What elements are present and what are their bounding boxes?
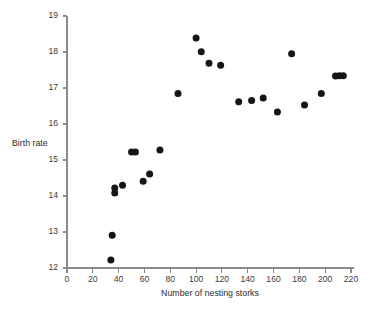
x-tick-group: 020406080100120140160180200220	[65, 268, 359, 284]
data-point	[288, 50, 295, 57]
x-tick-label: 0	[65, 274, 70, 284]
data-point	[119, 182, 126, 189]
y-axis-title: Birth rate	[12, 138, 48, 148]
y-tick-label: 12	[48, 262, 58, 272]
data-point	[132, 149, 139, 156]
x-tick-label: 140	[241, 274, 256, 284]
x-tick-label: 40	[114, 274, 124, 284]
data-point	[318, 90, 325, 97]
x-tick-label: 160	[266, 274, 281, 284]
data-point	[260, 95, 267, 102]
data-point	[206, 60, 213, 67]
data-point	[175, 90, 182, 97]
y-axis: 1213141516171819	[48, 10, 67, 272]
x-tick-label: 120	[215, 274, 230, 284]
x-tick-label: 100	[189, 274, 204, 284]
data-point	[340, 72, 347, 79]
scatter-plot-figure: 1213141516171819 02040608010012014016018…	[0, 0, 370, 313]
data-point	[146, 171, 153, 178]
x-tick-label: 80	[165, 274, 175, 284]
y-tick-label: 14	[48, 190, 58, 200]
data-point	[217, 62, 224, 69]
data-point	[301, 101, 308, 108]
y-tick-label: 19	[48, 10, 58, 20]
data-points-group	[107, 34, 346, 263]
data-point	[140, 178, 147, 185]
data-point	[156, 146, 163, 153]
x-tick-label: 20	[88, 274, 98, 284]
data-point	[274, 109, 281, 116]
data-point	[109, 232, 116, 239]
data-point	[248, 97, 255, 104]
x-tick-label: 60	[140, 274, 150, 284]
y-tick-label: 18	[48, 46, 58, 56]
y-tick-group: 1213141516171819	[48, 10, 67, 272]
y-tick-label: 13	[48, 226, 58, 236]
data-point	[198, 48, 205, 55]
data-point	[111, 185, 118, 192]
data-point	[107, 257, 114, 264]
plot-canvas: 1213141516171819 02040608010012014016018…	[0, 0, 370, 313]
y-tick-label: 15	[48, 154, 58, 164]
x-tick-label: 220	[344, 274, 359, 284]
y-tick-label: 16	[48, 118, 58, 128]
x-axis: 020406080100120140160180200220	[65, 268, 359, 284]
x-axis-title: Number of nesting storks	[161, 288, 259, 298]
y-tick-label: 17	[48, 82, 58, 92]
x-tick-label: 200	[318, 274, 333, 284]
x-tick-label: 180	[292, 274, 307, 284]
data-point	[193, 34, 200, 41]
data-point	[235, 98, 242, 105]
